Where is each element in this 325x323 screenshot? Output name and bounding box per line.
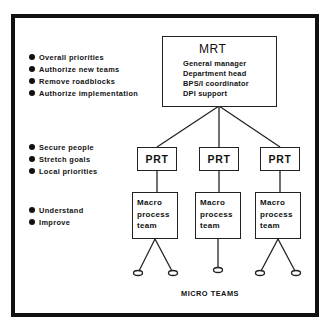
bullet-item: Local priorities (29, 165, 98, 177)
bullet-icon (29, 219, 35, 225)
bullet-icon (29, 144, 35, 150)
bullet-item: Improve (29, 216, 70, 228)
bullet-icon (29, 156, 35, 162)
bullet-item: Overall priorities (29, 51, 104, 63)
prt-box-1: PRT (137, 147, 177, 171)
bullet-icon (29, 78, 35, 84)
prt-box-2: PRT (199, 147, 239, 171)
prt-box-3: PRT (260, 147, 300, 171)
mrt-box: MRT General manager Department head BPS/… (162, 36, 277, 107)
micro-teams-label: MICRO TEAMS (170, 289, 250, 298)
macro-team-box-1: Macro process team (132, 192, 178, 239)
mrt-member: BPS/I coordinator (183, 79, 276, 89)
bullet-item: Authorize implementation (29, 87, 138, 99)
bullet-icon (29, 168, 35, 174)
bullet-item: Stretch goals (29, 153, 90, 165)
bullet-item: Understand (29, 204, 84, 216)
bullet-item: Secure people (29, 141, 94, 153)
bullet-icon (29, 90, 35, 96)
mrt-member: General manager (183, 59, 276, 69)
bullet-item: Remove roadblocks (29, 75, 115, 87)
macro-team-box-3: Macro process team (255, 192, 301, 239)
macro-team-box-2: Macro process team (195, 192, 241, 239)
bullet-item: Authorize new teams (29, 63, 120, 75)
bullet-icon (29, 54, 35, 60)
bullet-icon (29, 66, 35, 72)
mrt-title: MRT (199, 43, 276, 56)
bullet-icon (29, 207, 35, 213)
mrt-member: DPI support (183, 89, 276, 99)
mrt-member: Department head (183, 69, 276, 79)
